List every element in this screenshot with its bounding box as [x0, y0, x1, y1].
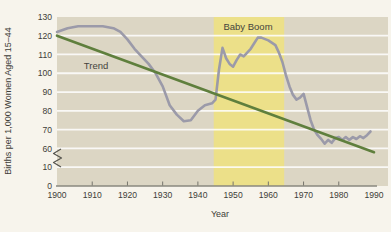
x-tick-label: 1990 [364, 190, 383, 200]
birth-rate-chart: 1900191019201930194019501960197019801990… [0, 0, 391, 232]
x-tick-label: 1980 [329, 190, 348, 200]
y-tick-label: 100 [38, 68, 53, 78]
x-tick-label: 1970 [294, 190, 313, 200]
x-tick-label: 1940 [188, 190, 207, 200]
y-tick-label: 70 [42, 125, 52, 135]
y-tick-label: 80 [42, 106, 52, 116]
y-tick-label: 130 [38, 12, 53, 22]
baby-boom-band [214, 17, 284, 186]
y-tick-label: 120 [38, 31, 53, 41]
x-tick-label: 1910 [83, 190, 102, 200]
baby-boom-band-label: Baby Boom [223, 21, 272, 32]
y-tick-label: 90 [42, 87, 52, 97]
chart-generated: 1900191019201930194019501960197019801990… [38, 12, 388, 200]
x-tick-label: 1920 [118, 190, 137, 200]
trend-line-label: Trend [84, 60, 108, 71]
x-tick-label: 1950 [224, 190, 243, 200]
y-tick-label: 110 [38, 50, 52, 60]
chart-svg: 1900191019201930194019501960197019801990… [0, 0, 391, 232]
x-tick-label: 1960 [259, 190, 278, 200]
y-tick-label: 0 [47, 181, 52, 191]
x-axis-title: Year [211, 209, 229, 219]
y-tick-label: 10 [42, 162, 52, 172]
y-tick-label: 60 [42, 144, 52, 154]
x-tick-label: 1930 [153, 190, 172, 200]
y-axis-title: Births per 1,000 Women Aged 15–44 [3, 27, 13, 174]
